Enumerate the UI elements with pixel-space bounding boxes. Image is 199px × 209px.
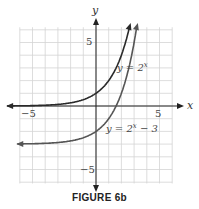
tick-x-neg5: −5 xyxy=(21,108,36,119)
exponential-graph: y x −5 5 5 −5 y = 2x y = 2x − 3 xyxy=(0,0,199,209)
curve-2-to-the-x xyxy=(7,26,130,106)
tick-y-neg5: −5 xyxy=(80,164,95,175)
curve2-label: y = 2x − 3 xyxy=(105,122,158,134)
tick-y-5: 5 xyxy=(86,36,92,47)
curve1-label: y = 2x xyxy=(116,61,148,73)
tick-x-5: 5 xyxy=(155,108,161,119)
x-axis-label: x xyxy=(187,99,194,112)
figure-caption: FIGURE 6b xyxy=(0,192,199,203)
y-axis-label: y xyxy=(91,4,99,17)
